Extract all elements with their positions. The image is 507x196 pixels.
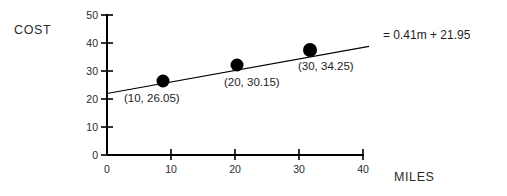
data-point-label-2: (20, 30.15) — [224, 76, 280, 88]
data-point-marker — [231, 59, 244, 72]
equation-label: = 0.41m + 21.95 — [383, 28, 470, 42]
data-point-marker — [303, 43, 317, 57]
scatter-plot-figure: COST MILES 50 40 30 20 10 0 0 10 20 30 4… — [0, 0, 507, 196]
data-point-label-1: (10, 26.05) — [124, 92, 180, 104]
data-point-label-3: (30, 34.25) — [298, 60, 354, 72]
data-point-marker — [157, 75, 170, 88]
